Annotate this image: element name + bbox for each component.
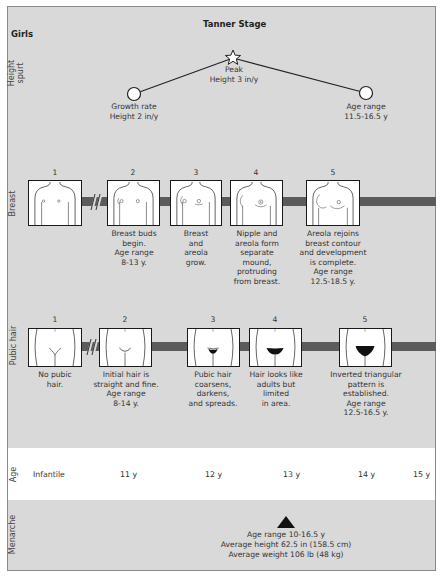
- caption-line: Initial hair is: [86, 370, 166, 380]
- age-tick: Infantile: [33, 470, 65, 479]
- caption-line: straight and fine.: [86, 380, 166, 390]
- caption-line: areola form: [224, 239, 290, 249]
- torso-icon: [231, 181, 282, 225]
- pubic-stage-number: 2: [115, 315, 135, 324]
- breast-stage-2-illustration: [107, 180, 160, 226]
- peak-star-icon: [225, 50, 240, 64]
- torso-icon: [108, 181, 159, 225]
- age-range-label: Age range 11.5-16.5 y: [331, 102, 401, 121]
- peak-label-line2: Height 3 in/y: [199, 75, 269, 85]
- breast-stage-5-caption: Areola rejoins breast contour and develo…: [293, 229, 373, 287]
- pubic-stage-1-caption: No pubic hair.: [20, 370, 90, 389]
- pelvis-icon: [250, 329, 301, 366]
- caption-line: established.: [322, 389, 410, 399]
- menarche-average-weight: Average weight 106 lb (48 kg): [206, 550, 366, 560]
- caption-line: mound,: [224, 258, 290, 268]
- caption-line: and development: [293, 248, 373, 258]
- caption-line: Breast buds: [98, 229, 170, 239]
- caption-line: breast contour: [293, 239, 373, 249]
- caption-line: Nipple and: [224, 229, 290, 239]
- caption-line: pattern is: [322, 380, 410, 390]
- breast-stage-1-illustration: [28, 180, 82, 226]
- age-tick: 12 y: [205, 470, 222, 479]
- pubic-stage-2-caption: Initial hair is straight and fine. Age r…: [86, 370, 166, 408]
- pelvis-icon: [340, 329, 391, 366]
- breast-stage-number: 4: [246, 168, 266, 177]
- menarche-average-height: Average height 62.5 in (158.5 cm): [206, 540, 366, 550]
- age-range-label-line2: 11.5-16.5 y: [331, 112, 401, 122]
- pelvis-icon: [100, 329, 151, 366]
- caption-line: and spreads.: [178, 399, 248, 409]
- caption-line: 8-13 y.: [98, 258, 170, 268]
- caption-line: Age range: [322, 399, 410, 409]
- growth-rate-label-line2: Height 2 in/y: [99, 112, 169, 122]
- caption-line: limited: [240, 389, 312, 399]
- caption-line: darkens,: [178, 389, 248, 399]
- menarche-caption: Age range 10-16.5 y Average height 62.5 …: [206, 530, 366, 560]
- row-label-pubic-hair: Pubic hair: [9, 321, 18, 371]
- breast-stage-number: 5: [323, 168, 343, 177]
- pubic-stage-5-caption: Inverted triangular pattern is establish…: [322, 370, 410, 418]
- caption-line: Inverted triangular: [322, 370, 410, 380]
- caption-line: separate: [224, 248, 290, 258]
- pubic-stage-number: 5: [355, 315, 375, 324]
- row-label-breast: Breast: [8, 184, 17, 224]
- caption-line: begin.: [98, 239, 170, 249]
- pubic-stage-2-illustration: [99, 328, 152, 367]
- caption-line: 8-14 y.: [86, 399, 166, 409]
- age-tick: 13 y: [283, 470, 300, 479]
- caption-line: in area.: [240, 399, 312, 409]
- pubic-stage-number: 4: [265, 315, 285, 324]
- growth-rate-label: Growth rate Height 2 in/y: [99, 102, 169, 121]
- caption-line: from breast.: [224, 277, 290, 287]
- pubic-stage-4-illustration: [249, 328, 302, 367]
- caption-line: Hair looks like: [240, 370, 312, 380]
- breast-stage-3-caption: Breast and areola grow.: [170, 229, 222, 267]
- breast-stage-4-illustration: [230, 180, 283, 226]
- peak-label: Peak Height 3 in/y: [199, 65, 269, 84]
- caption-line: Age range: [293, 267, 373, 277]
- breast-stage-number: 1: [45, 168, 65, 177]
- breast-stage-2-caption: Breast buds begin. Age range 8-13 y.: [98, 229, 170, 267]
- caption-line: No pubic: [20, 370, 90, 380]
- breast-stage-number: 3: [186, 168, 206, 177]
- age-tick: 15 y: [413, 470, 430, 479]
- caption-line: Areola rejoins: [293, 229, 373, 239]
- pubic-stage-5-illustration: [339, 328, 392, 367]
- row-label-age: Age: [9, 455, 18, 495]
- pubic-stage-number: 3: [203, 315, 223, 324]
- torso-icon: [29, 181, 81, 225]
- caption-line: hair.: [20, 380, 90, 390]
- caption-line: is complete.: [293, 258, 373, 268]
- growth-rate-label-line1: Growth rate: [99, 102, 169, 112]
- caption-line: and: [170, 239, 222, 249]
- breast-stage-5-illustration: [306, 180, 360, 226]
- caption-line: Age range: [98, 248, 170, 258]
- caption-line: adults but: [240, 380, 312, 390]
- caption-line: Age range: [86, 389, 166, 399]
- age-range-circle-icon: [360, 87, 373, 100]
- torso-icon: [307, 181, 359, 225]
- menarche-age-range: Age range 10-16.5 y: [206, 530, 366, 540]
- peak-label-line1: Peak: [199, 65, 269, 75]
- row-label-menarche: Menarche: [8, 510, 17, 560]
- caption-line: Pubic hair: [178, 370, 248, 380]
- breast-stage-number: 2: [123, 168, 143, 177]
- age-tick: 11 y: [120, 470, 137, 479]
- pelvis-icon: [29, 329, 81, 366]
- growth-rate-circle-icon: [128, 88, 141, 101]
- age-range-label-line1: Age range: [331, 102, 401, 112]
- caption-line: grow.: [170, 258, 222, 268]
- caption-line: Breast: [170, 229, 222, 239]
- pelvis-icon: [188, 329, 239, 366]
- age-tick: 14 y: [358, 470, 375, 479]
- caption-line: 12.5-18.5 y.: [293, 277, 373, 287]
- caption-line: protruding: [224, 267, 290, 277]
- pubic-stage-1-illustration: [28, 328, 82, 367]
- breast-stage-3-illustration: [170, 180, 222, 226]
- pubic-stage-number: 1: [45, 315, 65, 324]
- pubic-stage-3-caption: Pubic hair coarsens, darkens, and spread…: [178, 370, 248, 408]
- triangle-up-icon: [276, 515, 296, 529]
- caption-line: areola: [170, 248, 222, 258]
- torso-icon: [171, 181, 221, 225]
